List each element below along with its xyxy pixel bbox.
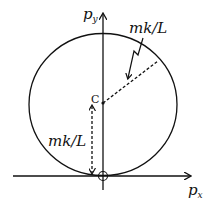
radius-label: mk/L bbox=[129, 19, 167, 37]
hodograph-diagram: py px C mk/L mk/L bbox=[0, 0, 209, 204]
radius-pointer-arrow bbox=[128, 38, 143, 78]
offset-label: mk/L bbox=[48, 132, 86, 150]
px-axis-label: px bbox=[188, 181, 203, 200]
center-label: C bbox=[91, 93, 99, 106]
py-axis-label: py bbox=[83, 5, 99, 24]
